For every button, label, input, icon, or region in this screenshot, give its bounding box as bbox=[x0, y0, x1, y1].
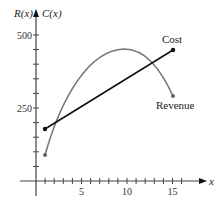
x-axis-label: x bbox=[208, 175, 214, 187]
x-axis-arrow-icon bbox=[199, 178, 207, 184]
cost-start-point bbox=[43, 127, 47, 131]
x-tick-label-10: 10 bbox=[122, 186, 132, 197]
y-axis-label-revenue: R(x) bbox=[13, 7, 33, 20]
revenue-end-point bbox=[171, 94, 175, 98]
revenue-start-point bbox=[43, 153, 47, 157]
chart: 5 10 15 250 500 R(x) C(x) x Cost Revenue bbox=[0, 0, 220, 210]
revenue-label: Revenue bbox=[156, 99, 195, 111]
x-tick-label-15: 15 bbox=[168, 186, 178, 197]
y-axis-arrow-icon bbox=[33, 9, 39, 17]
cost-line bbox=[45, 50, 173, 129]
cost-end-point bbox=[171, 48, 175, 52]
y-tick-label-500: 500 bbox=[17, 30, 32, 41]
revenue-curve bbox=[45, 49, 173, 155]
x-tick-label-5: 5 bbox=[79, 186, 84, 197]
cost-label: Cost bbox=[162, 33, 182, 45]
y-axis-label-cost: C(x) bbox=[42, 7, 62, 20]
y-tick-label-250: 250 bbox=[17, 103, 32, 114]
